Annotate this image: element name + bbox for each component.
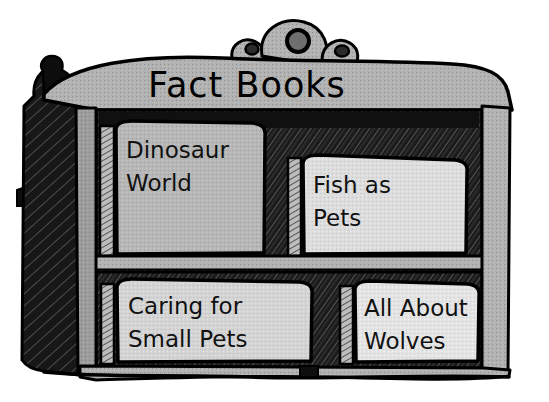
frame-left-upright xyxy=(76,108,96,378)
book-title-line-1: Dinosaur xyxy=(126,137,229,163)
bookcase-illustration: Fact Books Dinosaur World Fish as P xyxy=(0,0,549,402)
book-all-about-wolves[interactable]: All About Wolves xyxy=(340,281,479,364)
page-title: Fact Books xyxy=(148,65,346,105)
book-title-line-2: Small Pets xyxy=(128,326,247,352)
book-spine-fish-as-pets xyxy=(288,158,301,256)
left-ornament-inlay xyxy=(246,44,259,55)
book-title-line-1: Caring for xyxy=(128,293,243,319)
book-spine-dinosaur-world xyxy=(100,126,114,256)
frame-right-upright xyxy=(482,106,510,374)
book-spine-caring-for-small-pets xyxy=(101,284,114,364)
book-caring-for-small-pets[interactable]: Caring for Small Pets xyxy=(101,279,312,364)
book-title-line-2: Pets xyxy=(313,205,361,231)
book-fish-as-pets[interactable]: Fish as Pets xyxy=(288,155,467,256)
bookcase-base xyxy=(44,366,510,380)
book-title-line-2: World xyxy=(126,170,192,196)
bookcase-crest: Fact Books xyxy=(44,21,512,110)
bottom-shelf-books: Caring for Small Pets All About Wolves xyxy=(101,279,479,364)
book-spine-all-about-wolves xyxy=(340,286,353,364)
book-title-line-1: All About xyxy=(364,295,468,321)
illustration-canvas: Fact Books Dinosaur World Fish as P xyxy=(0,0,549,402)
book-title-line-2: Wolves xyxy=(364,328,446,354)
right-ornament-inlay xyxy=(335,46,349,57)
center-ornament-inlay xyxy=(287,30,309,52)
book-title-line-1: Fish as xyxy=(313,172,391,198)
book-dinosaur-world[interactable]: Dinosaur World xyxy=(100,121,265,256)
